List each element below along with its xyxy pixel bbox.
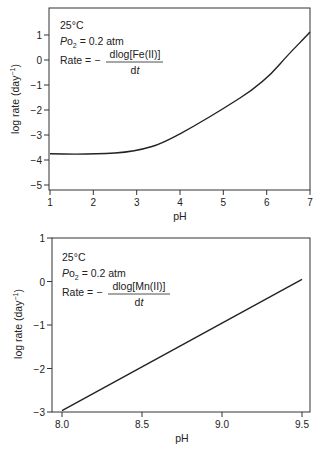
- fe-x-ticks: [50, 190, 310, 195]
- mn-y-axis-label: log rate (day−1): [12, 289, 24, 359]
- mn-xtick-label: 9.0: [215, 419, 229, 430]
- fe-rate-numerator: dlog[Fe(II)]: [110, 48, 161, 60]
- fe-xtick-label: 5: [221, 197, 227, 208]
- mn-xtick-label: 8.0: [55, 419, 69, 430]
- fe-xtick-label: 7: [307, 197, 313, 208]
- fe-ytick-label: −4: [31, 155, 43, 166]
- fe-x-axis-label: pH: [173, 210, 186, 222]
- figure: 1 0 −1 −2 −3 −4 −5 1 2 3 4 5 6 7 pH: [0, 0, 324, 455]
- fe-rate-curve: [50, 32, 310, 154]
- mn-y-tick-labels: 1 0 −1 −2 −3: [34, 233, 46, 418]
- mn-plot-frame: [52, 238, 310, 412]
- mn-ytick-label: 1: [39, 233, 45, 244]
- fe-ytick-label: −3: [31, 130, 43, 141]
- mn-ytick-label: −1: [34, 320, 46, 331]
- mn-xtick-label: 9.5: [295, 419, 309, 430]
- mn-ytick-label: 0: [39, 277, 45, 288]
- fe-y-tick-labels: 1 0 −1 −2 −3 −4 −5: [31, 30, 43, 191]
- fe-annotation: 25°C Po2 = 0.2 atm Rate = − dlog[Fe(II)]…: [60, 19, 163, 76]
- fe-po2: Po2 = 0.2 atm: [60, 35, 124, 49]
- fe-xtick-label: 4: [177, 197, 183, 208]
- mn-xtick-label: 8.5: [135, 419, 149, 430]
- fe-xtick-label: 2: [91, 197, 97, 208]
- mn-x-tick-labels: 8.0 8.5 9.0 9.5: [55, 419, 309, 430]
- fe-temperature: 25°C: [60, 19, 84, 31]
- mn-ytick-label: −3: [34, 407, 46, 418]
- fe-ytick-label: −1: [31, 80, 43, 91]
- mn-rate-label: Rate = −: [62, 286, 102, 298]
- mn-rate-line: [62, 279, 302, 410]
- fe-ytick-label: −5: [31, 180, 43, 191]
- mn-x-axis-label: pH: [175, 432, 188, 444]
- mn-rate-denominator: dt: [135, 296, 145, 308]
- fe-rate-denominator: dt: [131, 64, 141, 76]
- fe-rate-label: Rate = −: [60, 54, 100, 66]
- fe-ytick-label: 0: [36, 55, 42, 66]
- mn-chart: 1 0 −1 −2 −3 8.0 8.5 9.0 9.5 pH log rate…: [12, 233, 310, 444]
- fe-y-axis-label: log rate (day−1): [9, 64, 21, 134]
- mn-x-ticks: [62, 412, 302, 417]
- fe-ytick-label: −2: [31, 105, 43, 116]
- fe-ytick-label: 1: [36, 30, 42, 41]
- mn-temperature: 25°C: [62, 251, 86, 263]
- mn-rate-numerator: dlog[Mn(II)]: [112, 280, 165, 292]
- fe-xtick-label: 6: [264, 197, 270, 208]
- fe-y-ticks: [44, 35, 49, 185]
- mn-y-ticks: [47, 238, 52, 412]
- fe-x-tick-labels: 1 2 3 4 5 6 7: [47, 197, 313, 208]
- fe-xtick-label: 3: [134, 197, 140, 208]
- mn-po2: Po2 = 0.2 atm: [62, 267, 126, 281]
- mn-annotation: 25°C Po2 = 0.2 atm Rate = − dlog[Mn(II)]…: [62, 251, 170, 308]
- mn-ytick-label: −2: [34, 364, 46, 375]
- fe-chart: 1 0 −1 −2 −3 −4 −5 1 2 3 4 5 6 7 pH: [9, 8, 313, 222]
- fe-xtick-label: 1: [47, 197, 53, 208]
